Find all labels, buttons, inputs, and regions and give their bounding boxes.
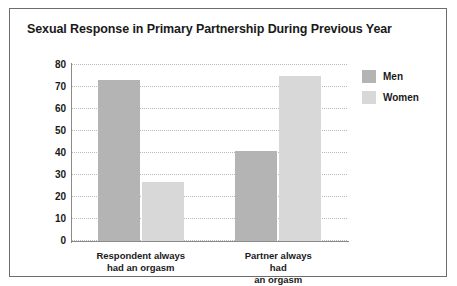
x-axis-line [71, 241, 349, 242]
y-axis-tick-label: 10 [55, 214, 66, 224]
plot-area: 01020304050607080Respondent always had a… [72, 65, 347, 241]
y-axis-tick-label: 30 [55, 170, 66, 180]
y-axis-tick-label: 40 [55, 148, 66, 158]
y-axis-tick-label: 80 [55, 60, 66, 70]
y-axis-tick-label: 50 [55, 126, 66, 136]
bar-women-group-2 [279, 76, 321, 241]
legend-swatch-men-icon [362, 70, 376, 83]
x-axis-tick-label: Respondent always had an orgasm [96, 250, 185, 274]
legend-label-women: Women [383, 92, 419, 103]
chart-legend: Men Women [362, 68, 419, 110]
legend-item-men: Men [362, 68, 419, 85]
legend-swatch-women-icon [362, 91, 376, 104]
chart-figure-frame: Sexual Response in Primary Partnership D… [9, 8, 447, 277]
gridline-y-80: 80 [72, 64, 347, 65]
y-axis-tick-label: 0 [60, 236, 66, 246]
y-axis-tick-label: 60 [55, 104, 66, 114]
bar-men-group-1 [98, 80, 140, 241]
y-axis-tick-label: 70 [55, 82, 66, 92]
legend-item-women: Women [362, 89, 419, 106]
bar-women-group-1 [142, 182, 184, 241]
x-axis-tick-label: Partner always had an orgasm [244, 250, 313, 286]
bar-men-group-2 [235, 151, 277, 241]
legend-label-men: Men [383, 71, 403, 82]
y-axis-tick-label: 20 [55, 192, 66, 202]
chart-title: Sexual Response in Primary Partnership D… [27, 22, 427, 36]
